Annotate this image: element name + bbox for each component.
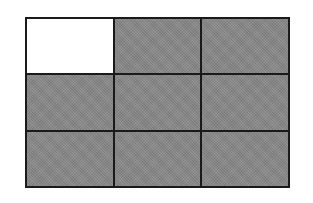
grid-cell-r1-c2 xyxy=(115,19,201,73)
grid-3x3 xyxy=(25,17,290,188)
diagram-canvas xyxy=(0,0,313,203)
grid-cell-r1-c3 xyxy=(202,19,288,73)
grid-cell-r1-c1 xyxy=(27,19,113,73)
grid-cell-r3-c3 xyxy=(202,132,288,186)
grid-cell-r3-c1 xyxy=(27,132,113,186)
grid-cell-r2-c3 xyxy=(202,75,288,129)
grid-cell-r2-c1 xyxy=(27,75,113,129)
grid-cell-r2-c2 xyxy=(115,75,201,129)
grid-cell-r3-c2 xyxy=(115,132,201,186)
